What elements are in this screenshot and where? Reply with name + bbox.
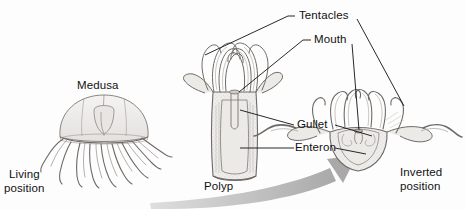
label-medusa: Medusa <box>77 79 119 92</box>
label-inverted-position-line2: position <box>400 179 440 193</box>
label-tentacles: Tentacles <box>299 9 348 22</box>
label-living-position-line2: position <box>4 181 44 195</box>
leader-tentacles-inverted <box>357 19 404 106</box>
label-enteron: Enteron <box>295 141 336 154</box>
inverted-polyp-drawing <box>254 90 462 171</box>
label-gullet: Gullet <box>297 118 328 131</box>
medusa-drawing <box>41 95 172 188</box>
label-living-position-line1: Living <box>9 167 40 181</box>
label-inverted-position-line1: Inverted <box>400 165 442 179</box>
label-polyp: Polyp <box>204 180 233 193</box>
figure-canvas: Medusa Living position Polyp Tentacles M… <box>0 0 466 209</box>
label-mouth: Mouth <box>314 33 346 46</box>
leader-mouth-inverted <box>352 44 359 130</box>
diagram-svg <box>0 0 466 209</box>
polyp-drawing <box>183 43 282 180</box>
